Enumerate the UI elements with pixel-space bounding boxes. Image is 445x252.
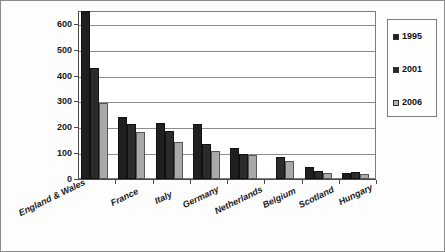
chart-legend: 1995 2001 2006 — [387, 19, 437, 117]
x-axis-category-labels: England & WalesFranceItalyGermanyNetherl… — [1, 1, 445, 252]
legend-swatch-2006-icon — [393, 100, 399, 106]
y-axis-tick-mark — [74, 76, 78, 77]
y-axis-tick-mark — [74, 127, 78, 128]
x-axis-category-label: France — [109, 186, 140, 208]
legend-entry-2006: 2006 — [393, 98, 422, 107]
x-axis-tick-mark — [302, 180, 303, 184]
x-axis-category-label: England & Wales — [17, 177, 87, 218]
x-axis-category-label: Italy — [153, 189, 174, 206]
y-axis-tick-mark — [74, 179, 78, 180]
legend-swatch-2001-icon — [393, 67, 399, 73]
x-axis-tick-mark — [190, 180, 191, 184]
legend-label-2001: 2001 — [402, 65, 422, 74]
legend-swatch-1995-icon — [393, 34, 399, 40]
y-axis-tick-mark — [74, 153, 78, 154]
x-axis-category-label: Belgium — [261, 185, 297, 210]
x-axis-category-label: Hungary — [337, 182, 374, 207]
y-axis-tick-mark — [74, 24, 78, 25]
x-axis-category-label: Scotland — [297, 184, 336, 210]
x-axis-tick-mark — [227, 180, 228, 184]
y-axis-tick-mark — [74, 50, 78, 51]
legend-entry-1995: 1995 — [393, 32, 422, 41]
legend-entry-2001: 2001 — [393, 65, 422, 74]
y-axis-tick-mark — [74, 101, 78, 102]
x-axis-tick-mark — [264, 180, 265, 184]
x-axis-tick-mark — [153, 180, 154, 184]
x-axis-tick-mark — [115, 180, 116, 184]
legend-label-2006: 2006 — [402, 98, 422, 107]
legend-label-1995: 1995 — [402, 32, 422, 41]
chart-figure: 0100200300400500600 England & WalesFranc… — [0, 0, 445, 252]
x-axis-category-label: Netherlands — [213, 184, 264, 216]
x-axis-tick-mark — [339, 180, 340, 184]
x-axis-tick-mark — [376, 180, 377, 184]
